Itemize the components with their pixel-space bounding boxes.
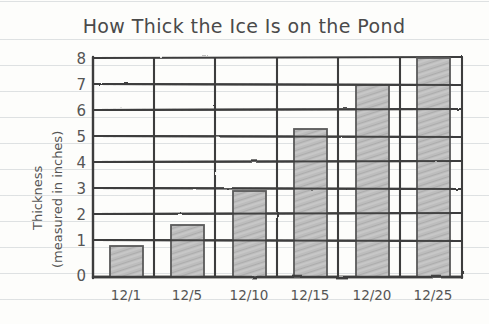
bar-chart: How Thick the Ice Is on the Pond 8 7 6 5… (0, 0, 489, 324)
plot-grid-overlay (93, 58, 462, 277)
bar-12-10[interactable] (233, 191, 266, 277)
bar-12-15[interactable] (294, 129, 327, 277)
x-tick-12-5: 12/5 (172, 287, 202, 303)
x-tick-12-10: 12/10 (230, 287, 269, 303)
bar-12-1[interactable] (110, 246, 143, 277)
x-tick-12-15: 12/15 (291, 287, 330, 303)
x-axis-tick-labels: 12/1 12/5 12/10 12/15 12/20 12/25 (111, 287, 453, 303)
bar-12-25[interactable] (417, 58, 450, 277)
x-tick-12-1: 12/1 (111, 287, 141, 303)
y-tick-8: 8 (76, 50, 86, 68)
y-tick-1: 1 (76, 232, 86, 250)
y-tick-2: 2 (76, 206, 86, 224)
y-tick-3: 3 (76, 180, 86, 198)
y-tick-7: 7 (76, 76, 86, 94)
y-axis-title-line1: Thickness (30, 166, 45, 231)
y-axis-title: Thickness (measured in inches) (30, 131, 65, 268)
bar-12-20[interactable] (356, 85, 389, 277)
y-tick-4: 4 (76, 154, 86, 172)
x-tick-12-20: 12/20 (353, 287, 392, 303)
y-tick-6: 6 (76, 102, 86, 120)
bar-12-5[interactable] (171, 225, 204, 277)
chart-title: How Thick the Ice Is on the Pond (83, 15, 406, 37)
y-axis-tick-labels: 8 7 6 5 4 3 2 1 0 (76, 50, 86, 285)
y-axis-title-line2: (measured in inches) (50, 131, 65, 268)
y-tick-5: 5 (76, 128, 86, 146)
x-tick-12-25: 12/25 (414, 287, 453, 303)
y-tick-0: 0 (76, 267, 86, 285)
